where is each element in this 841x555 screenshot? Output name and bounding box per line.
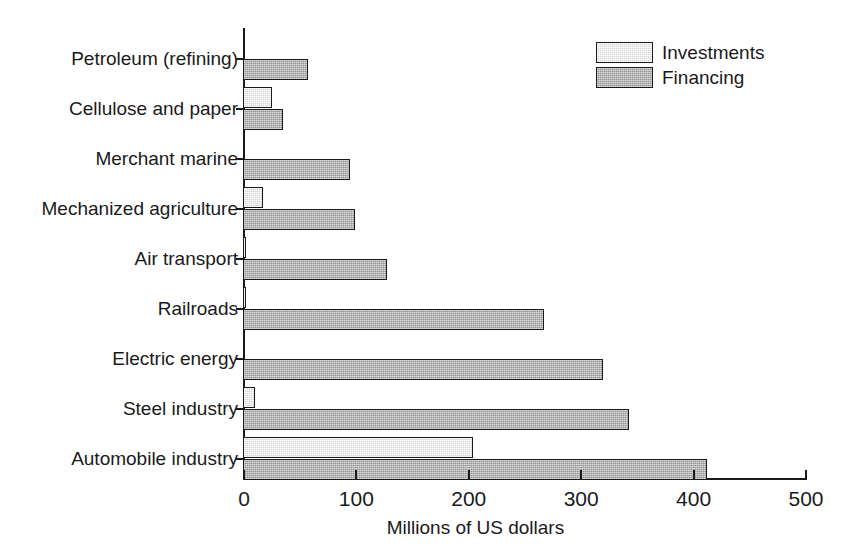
- bar-financing: [243, 159, 350, 180]
- bar-financing: [243, 359, 603, 380]
- bar-group: [243, 87, 805, 137]
- bar-financing: [243, 309, 544, 330]
- bar-investments: [243, 187, 263, 208]
- y-axis-tick-label: Mechanized agriculture: [6, 198, 238, 220]
- x-axis-tick: [468, 470, 470, 480]
- bar-financing: [243, 259, 387, 280]
- bar-group: [243, 137, 805, 187]
- y-axis-tick-label: Steel industry: [6, 398, 238, 420]
- bar-group: [243, 187, 805, 237]
- bar-financing: [243, 209, 355, 230]
- legend-item-investments: Investments: [596, 40, 764, 65]
- x-axis-tick-label: 400: [659, 487, 729, 511]
- bar-investments: [243, 237, 246, 258]
- y-axis-tick-label: Merchant marine: [6, 148, 238, 170]
- legend-label-investments: Investments: [662, 42, 764, 64]
- x-axis-tick-label: 500: [771, 487, 841, 511]
- bar-group: [243, 287, 805, 337]
- bar-financing: [243, 459, 707, 480]
- x-axis-tick: [805, 470, 807, 480]
- x-axis-tick-label: 0: [209, 487, 279, 511]
- x-axis-title: Millions of US dollars: [0, 517, 841, 539]
- y-axis-tick-label: Petroleum (refining): [6, 48, 238, 70]
- y-axis-tick-label: Electric energy: [6, 348, 238, 370]
- y-axis-tick-label: Air transport: [6, 248, 238, 270]
- bar-investments: [243, 87, 272, 108]
- legend-swatch-financing-icon: [596, 67, 653, 88]
- x-axis-tick-label: 200: [434, 487, 504, 511]
- bar-investments: [243, 437, 473, 458]
- x-axis-tick: [355, 470, 357, 480]
- bar-group: [243, 337, 805, 387]
- y-axis-category-labels: Petroleum (refining)Cellulose and paperM…: [0, 28, 238, 478]
- bar-group: [243, 237, 805, 287]
- x-axis-tick-label: 300: [546, 487, 616, 511]
- y-axis-tick-label: Automobile industry: [6, 448, 238, 470]
- legend-swatch-investments-icon: [596, 42, 653, 63]
- bar-financing: [243, 109, 283, 130]
- x-axis-tick: [243, 470, 245, 480]
- bar-group: [243, 437, 805, 487]
- y-axis-tick-label: Cellulose and paper: [6, 98, 238, 120]
- bar-investments: [243, 287, 246, 308]
- plot-area: [243, 28, 805, 478]
- x-axis-tick-label: 100: [321, 487, 391, 511]
- bar-financing: [243, 59, 308, 80]
- y-axis-tick-label: Railroads: [6, 298, 238, 320]
- bar-group: [243, 387, 805, 437]
- bar-chart: Petroleum (refining)Cellulose and paperM…: [0, 0, 841, 555]
- x-axis-tick: [580, 470, 582, 480]
- bar-financing: [243, 409, 629, 430]
- legend-item-financing: Financing: [596, 65, 764, 90]
- chart-legend: Investments Financing: [596, 40, 764, 90]
- legend-label-financing: Financing: [662, 67, 744, 89]
- x-axis-tick: [693, 470, 695, 480]
- bar-investments: [243, 387, 255, 408]
